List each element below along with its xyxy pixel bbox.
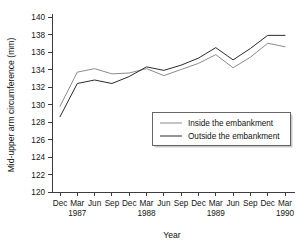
series-line-outside (60, 35, 285, 116)
y-tick-label: 140 (31, 13, 45, 22)
y-tick-label: 122 (31, 171, 45, 180)
x-year-label: 1990 (276, 209, 295, 218)
y-tick-label: 128 (31, 118, 45, 127)
x-tick-label: Mar (70, 199, 84, 208)
y-tick-label: 136 (31, 48, 45, 57)
y-tick-label: 134 (31, 66, 45, 75)
x-tick-label: Jun (226, 199, 240, 208)
x-tick-label: Mar (278, 199, 292, 208)
x-tick-label: Jun (157, 199, 171, 208)
y-tick-label: 132 (31, 83, 45, 92)
x-tick-label: Dec (260, 199, 275, 208)
series-line-inside (60, 43, 285, 106)
x-tick-label: Dec (122, 199, 137, 208)
x-tick-label: Jun (88, 199, 102, 208)
y-tick-label: 130 (31, 101, 45, 110)
legend-label: Inside the embankment (188, 119, 274, 128)
x-year-label: 1989 (207, 209, 226, 218)
x-tick-label: Sep (243, 199, 258, 208)
y-tick-label: 138 (31, 31, 45, 40)
chart-figure: 120122124126128130132134136138140 DecMar… (0, 0, 305, 242)
x-tick-label: Sep (174, 199, 189, 208)
x-year-label: 1988 (137, 209, 156, 218)
x-tick-label: Sep (105, 199, 120, 208)
y-tick-label: 124 (31, 153, 45, 162)
x-axis-title: Year (163, 230, 181, 240)
x-tick-label: Dec (53, 199, 68, 208)
y-tick-label: 126 (31, 136, 45, 145)
y-axis-title: Mid-upper arm circumference (mm) (6, 38, 16, 173)
x-tick-label: Dec (191, 199, 206, 208)
x-tick-label: Mar (209, 199, 223, 208)
x-tick-label: Mar (139, 199, 153, 208)
x-year-label: 1987 (68, 209, 87, 218)
line-chart: 120122124126128130132134136138140 DecMar… (0, 0, 305, 242)
series-lines (60, 35, 285, 116)
chart-legend: Inside the embankmentOutside the embankm… (152, 112, 293, 148)
y-tick-label: 120 (31, 188, 45, 197)
y-axis: 120122124126128130132134136138140 (31, 13, 52, 197)
legend-label: Outside the embankment (188, 132, 280, 141)
x-axis: DecMarJunSepDecMarJunSepDecMarJunSepDecM… (52, 192, 295, 218)
